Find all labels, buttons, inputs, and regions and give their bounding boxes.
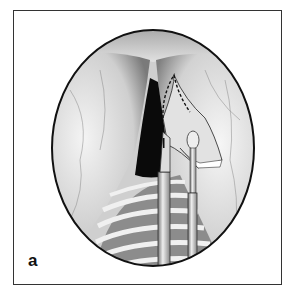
panel-label: a [28,251,37,271]
endoscopic-illustration [0,0,296,300]
tissue-scene [40,20,270,280]
